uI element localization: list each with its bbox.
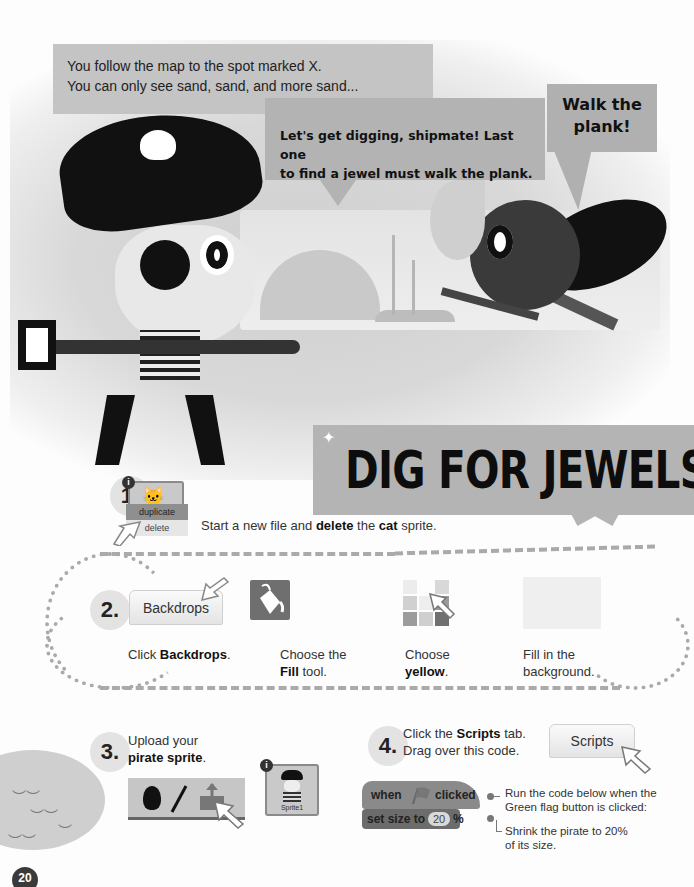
info-icon[interactable]: i xyxy=(122,476,135,489)
pointer-cursor-icon xyxy=(213,800,247,830)
menu-item-duplicate[interactable]: duplicate xyxy=(126,504,188,520)
paint-brush-icon[interactable] xyxy=(170,784,188,814)
block-text: when xyxy=(371,788,402,802)
pirate-eye xyxy=(200,235,234,275)
text: Choose the xyxy=(280,646,347,663)
text: Click the xyxy=(403,726,456,741)
text: background. xyxy=(523,663,595,680)
speech-line: Let's get digging, shipmate! Last one xyxy=(280,126,535,164)
swatch[interactable] xyxy=(403,612,417,626)
step-3-instruction: Upload your pirate sprite. xyxy=(128,732,206,766)
annotation-flag: Run the code below when the Green flag b… xyxy=(505,786,657,814)
page-title: DIG FOR JEWELS xyxy=(345,425,610,515)
parrot-beak xyxy=(430,180,485,260)
pirate-speech-bubble: Let's get digging, shipmate! Last one to… xyxy=(265,98,545,180)
wave-icon: ︶ xyxy=(58,820,72,840)
text: the xyxy=(353,518,378,533)
sprite1-thumbnail[interactable]: Sprite1 xyxy=(265,764,319,816)
speech-tail xyxy=(320,180,356,206)
wave-icon: ︶︶ xyxy=(30,805,58,825)
step-4-badge: 4. xyxy=(368,726,408,766)
set-size-block[interactable]: set size to20% xyxy=(362,809,460,829)
step-2a-text: Click Backdrops. xyxy=(128,646,231,663)
text: Green flag button is clicked: xyxy=(505,800,657,814)
bold-text: cat xyxy=(379,518,398,533)
bold-text: yellow xyxy=(405,664,445,679)
pointer-cursor-icon xyxy=(428,592,456,620)
palm-tree xyxy=(412,260,415,315)
text: Fill in the xyxy=(523,646,595,663)
info-icon[interactable]: i xyxy=(260,759,273,772)
step-4-instruction: Click the Scripts tab. Drag over this co… xyxy=(403,725,526,759)
pointer-cursor-icon xyxy=(620,745,654,775)
dashed-divider xyxy=(100,686,620,690)
text: of its size. xyxy=(505,838,628,852)
palm-tree xyxy=(392,235,395,315)
step-2d-text: Fill in the background. xyxy=(523,646,595,680)
bold-text: pirate sprite xyxy=(128,750,202,765)
text: Start a new file and xyxy=(201,518,316,533)
text: Run the code below when the xyxy=(505,786,657,800)
sprite-library-icon[interactable] xyxy=(143,786,161,810)
pirate-hat-icon xyxy=(281,770,303,780)
swatch[interactable] xyxy=(403,596,417,610)
text: Shrink the pirate to 20% xyxy=(505,824,628,838)
wave-icon: ︶︶ xyxy=(12,786,40,806)
pirate-shirt xyxy=(140,330,200,380)
pirate-face xyxy=(115,225,255,345)
text: sprite. xyxy=(398,518,437,533)
shovel-grip xyxy=(18,320,56,370)
speech-line: Walk the xyxy=(551,94,653,116)
step-2-badge: 2. xyxy=(90,590,130,630)
annotation-line xyxy=(496,831,502,832)
text: . xyxy=(227,647,231,662)
text: Upload your xyxy=(128,732,206,749)
paint-bucket-icon xyxy=(250,580,290,620)
text: tab. xyxy=(501,726,526,741)
parrot-body xyxy=(470,200,580,310)
caption-line: You can only see sand, sand, and more sa… xyxy=(67,76,419,96)
step-2b-text: Choose the Fill tool. xyxy=(280,646,347,680)
bold-text: delete xyxy=(316,518,354,533)
bold-text: Backdrops xyxy=(160,647,227,662)
pirate-shirt-icon xyxy=(283,792,301,802)
speech-line: plank! xyxy=(551,116,653,138)
block-text: set size to xyxy=(367,812,425,826)
block-text: % xyxy=(453,812,464,826)
text: Choose xyxy=(405,646,450,663)
annotation-size: Shrink the pirate to 20% of its size. xyxy=(505,824,628,852)
eyepatch xyxy=(140,240,190,290)
annotation-dot xyxy=(487,815,494,822)
dashed-divider xyxy=(395,545,655,556)
speech-line: to find a jewel must walk the plank. xyxy=(280,164,535,183)
wave-icon: ︶︶ xyxy=(8,830,36,850)
block-text: clicked xyxy=(435,788,476,802)
page-number: 20 xyxy=(12,867,38,887)
text: . xyxy=(445,664,449,679)
shovel-handle xyxy=(20,340,300,354)
green-flag-icon xyxy=(410,785,432,805)
step-2c-text: Choose yellow. xyxy=(405,646,450,680)
parrot-eye xyxy=(487,225,513,259)
swatch[interactable] xyxy=(403,580,417,594)
parrot-speech-bubble: Walk the plank! xyxy=(547,84,657,152)
illustration-island xyxy=(375,310,455,322)
pointer-cursor-icon xyxy=(112,520,144,546)
bold-text: Scripts xyxy=(456,726,500,741)
text: Drag over this code. xyxy=(403,742,526,759)
pirate-face-icon xyxy=(284,780,300,792)
annotation-line xyxy=(492,796,500,797)
size-value-input[interactable]: 20 xyxy=(428,812,450,826)
step-3-badge: 3. xyxy=(90,732,130,772)
skull-icon xyxy=(140,130,176,160)
fill-tool-button[interactable] xyxy=(250,580,290,620)
text: . xyxy=(202,750,206,765)
text: Click xyxy=(128,647,160,662)
bold-text: Fill xyxy=(280,664,299,679)
caption-line: You follow the map to the spot marked X. xyxy=(67,56,419,76)
text: tool. xyxy=(299,664,327,679)
sprite-label: Sprite1 xyxy=(267,804,317,811)
dashed-divider xyxy=(100,552,395,556)
backdrop-canvas[interactable] xyxy=(523,577,601,629)
when-flag-clicked-block[interactable]: when clicked xyxy=(362,781,480,809)
